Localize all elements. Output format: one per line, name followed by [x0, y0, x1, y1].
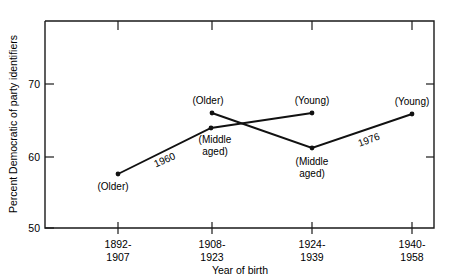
x-tick-label-2-line2: 1923 — [200, 251, 224, 263]
x-axis-title: Year of birth — [212, 264, 268, 276]
line-chart: 70 60 50 Percent Democratic of party ide… — [0, 0, 454, 279]
y-tick-label-50: 50 — [28, 222, 40, 234]
annotation-young-cat4: (Young) — [395, 96, 430, 107]
data-point-1976-1908 — [210, 111, 215, 116]
annotation-middle-cat3-line2: aged) — [299, 168, 325, 179]
x-tick-label-3-line2: 1939 — [300, 251, 324, 263]
y-tick-label-60: 60 — [28, 151, 40, 163]
annotation-middle-cat2-line1: (Middle — [199, 134, 232, 145]
annotation-middle-cat3-line1: (Middle — [296, 156, 329, 167]
x-tick-label-1-line2: 1907 — [106, 251, 130, 263]
x-tick-label-4-line1: 1940- — [399, 238, 426, 250]
data-point-1960-1892 — [116, 172, 121, 177]
series-label-1960: 1960 — [152, 150, 177, 169]
data-point-1976-1940 — [410, 112, 415, 117]
data-point-1976-1924 — [310, 146, 315, 151]
data-point-1960-1908 — [209, 126, 214, 131]
annotation-older-cat2: (Older) — [192, 95, 223, 106]
annotation-middle-cat2-line2: aged) — [202, 146, 228, 157]
annotation-older-cat1: (Older) — [97, 181, 128, 192]
annotation-young-cat3: (Young) — [295, 95, 330, 106]
x-tick-label-3-line1: 1924- — [299, 238, 326, 250]
x-tick-label-1-line1: 1892- — [105, 238, 132, 250]
series-label-1976: 1976 — [356, 131, 381, 149]
y-tick-label-70: 70 — [28, 78, 40, 90]
series-line-1976 — [212, 113, 412, 148]
x-tick-label-2-line1: 1908- — [199, 238, 226, 250]
data-point-1960-1924 — [310, 111, 315, 116]
chart-container: 70 60 50 Percent Democratic of party ide… — [0, 0, 454, 279]
y-axis-title: Percent Democratic of party identifiers — [7, 35, 19, 213]
x-tick-label-4-line2: 1958 — [400, 251, 424, 263]
